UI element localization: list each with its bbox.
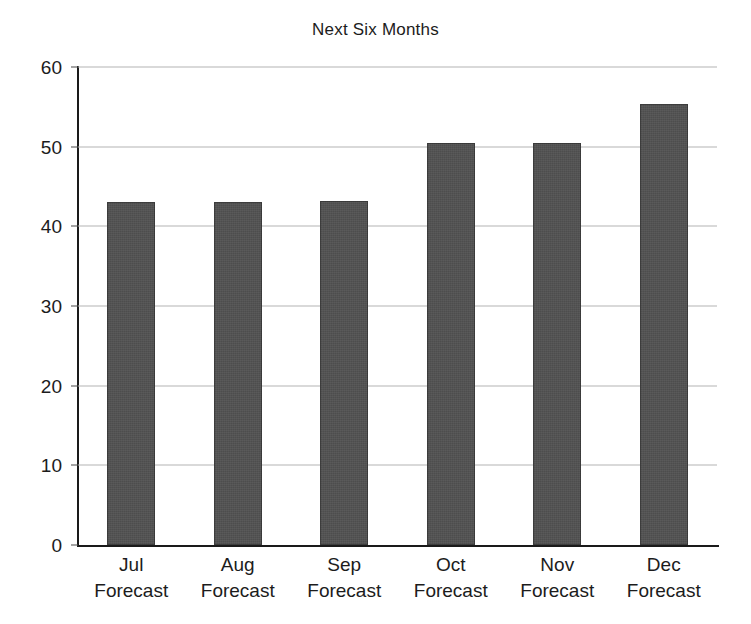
gridline xyxy=(78,146,717,147)
y-axis-tick-mark xyxy=(71,226,78,227)
y-axis-tick-mark xyxy=(71,306,78,307)
x-axis-tick-label: SepForecast xyxy=(291,552,398,604)
y-axis-tick-label: 30 xyxy=(0,297,62,316)
y-axis-tick-mark xyxy=(71,545,78,546)
gridline xyxy=(78,306,717,307)
y-axis-tick-mark xyxy=(71,146,78,147)
y-axis-tick-label: 0 xyxy=(0,536,62,555)
x-axis-tick-labels: JulForecastAugForecastSepForecastOctFore… xyxy=(78,552,717,614)
x-axis-label-month: Sep xyxy=(327,554,361,575)
x-axis-label-qualifier: Forecast xyxy=(185,578,292,604)
x-axis-tick-label: AugForecast xyxy=(185,552,292,604)
x-axis-tick-label: OctForecast xyxy=(398,552,505,604)
x-axis-label-qualifier: Forecast xyxy=(611,578,718,604)
x-axis-label-month: Dec xyxy=(647,554,681,575)
bar[interactable] xyxy=(107,202,155,545)
y-axis-tick-label: 60 xyxy=(0,58,62,77)
bar[interactable] xyxy=(214,202,262,545)
x-axis-tick-label: DecForecast xyxy=(611,552,718,604)
x-axis-label-month: Jul xyxy=(119,554,143,575)
x-axis-label-month: Oct xyxy=(436,554,466,575)
bar[interactable] xyxy=(640,104,688,545)
x-axis-label-qualifier: Forecast xyxy=(398,578,505,604)
x-axis-tick-label: JulForecast xyxy=(78,552,185,604)
y-axis-tick-mark xyxy=(71,67,78,68)
y-axis-tick-mark xyxy=(71,385,78,386)
x-axis-tick-label: NovForecast xyxy=(504,552,611,604)
y-axis-tick-label: 50 xyxy=(0,138,62,157)
gridline xyxy=(78,465,717,466)
gridline xyxy=(78,67,717,68)
plot-area xyxy=(78,67,717,545)
x-axis-label-qualifier: Forecast xyxy=(504,578,611,604)
x-axis-label-month: Aug xyxy=(221,554,255,575)
bar[interactable] xyxy=(533,143,581,545)
x-axis-line xyxy=(78,545,719,547)
gridline xyxy=(78,226,717,227)
bar[interactable] xyxy=(320,201,368,545)
y-axis-tick-mark xyxy=(71,465,78,466)
y-axis-tick-label: 40 xyxy=(0,217,62,236)
gridline xyxy=(78,385,717,386)
bar-chart: Next Six Months 0102030405060 JulForecas… xyxy=(0,0,751,624)
y-axis-tick-label: 20 xyxy=(0,377,62,396)
chart-title: Next Six Months xyxy=(0,20,751,40)
y-axis-tick-label: 10 xyxy=(0,456,62,475)
x-axis-label-qualifier: Forecast xyxy=(78,578,185,604)
x-axis-label-qualifier: Forecast xyxy=(291,578,398,604)
x-axis-label-month: Nov xyxy=(540,554,574,575)
bar[interactable] xyxy=(427,143,475,545)
